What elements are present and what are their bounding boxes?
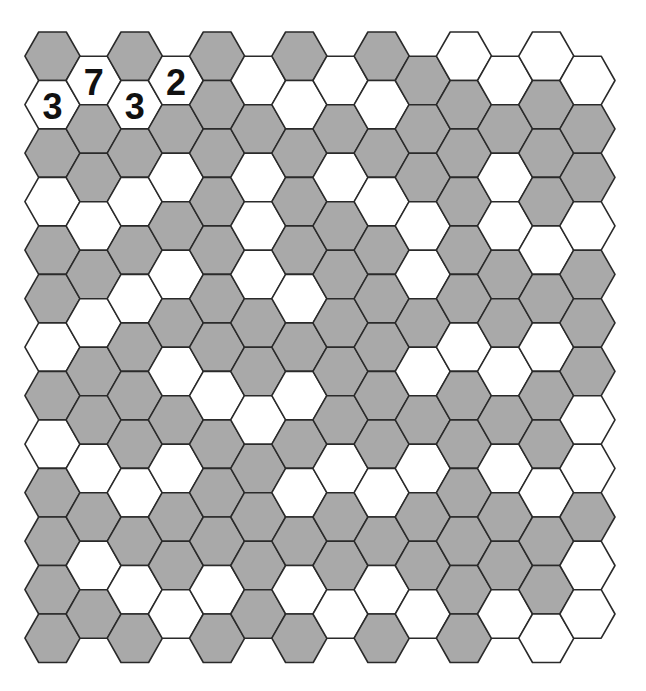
hex-cells-layer <box>25 32 615 663</box>
hex-puzzle-board: 3732 <box>0 0 646 691</box>
